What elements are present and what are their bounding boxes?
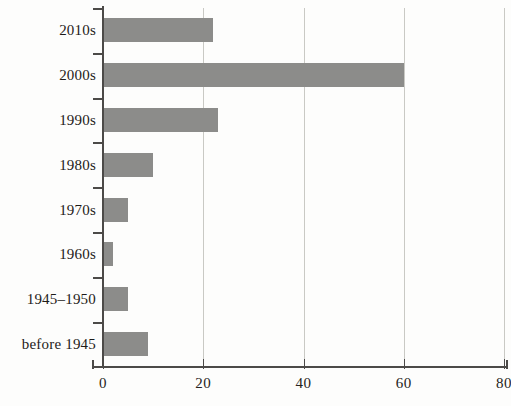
y-axis-label: before 1945 bbox=[0, 336, 96, 353]
bar bbox=[103, 198, 128, 222]
y-axis-tick bbox=[93, 187, 103, 189]
y-axis-tick bbox=[93, 322, 103, 324]
bar bbox=[103, 287, 128, 311]
x-axis-label: 60 bbox=[396, 375, 412, 392]
x-axis-line bbox=[92, 366, 508, 368]
y-axis-tick bbox=[93, 8, 103, 10]
y-axis-label: 1980s bbox=[0, 156, 96, 173]
y-axis-tick bbox=[93, 142, 103, 144]
bar bbox=[103, 63, 404, 87]
x-axis-tick-0 bbox=[103, 359, 104, 369]
x-axis-label: 80 bbox=[496, 375, 511, 392]
y-axis-label: 2010s bbox=[0, 22, 96, 39]
x-axis-left-cap bbox=[92, 360, 94, 369]
gridline-80 bbox=[504, 8, 505, 366]
bar bbox=[103, 153, 153, 177]
y-axis-label: 1945–1950 bbox=[0, 291, 96, 308]
plot-area bbox=[103, 8, 504, 366]
bar-chart: 2010s2000s1990s1980s1970s1960s1945–1950b… bbox=[0, 0, 511, 406]
bar bbox=[103, 108, 218, 132]
gridline-40 bbox=[304, 8, 305, 366]
bar bbox=[103, 18, 213, 42]
gridline-60 bbox=[404, 8, 405, 366]
x-axis-label: 40 bbox=[296, 375, 312, 392]
y-axis-label: 2000s bbox=[0, 67, 96, 84]
x-axis-label: 20 bbox=[195, 375, 211, 392]
y-axis-label: 1970s bbox=[0, 201, 96, 218]
x-axis-tick-20 bbox=[203, 359, 204, 369]
bar bbox=[103, 332, 148, 356]
y-axis-tick bbox=[93, 277, 103, 279]
x-axis-right-cap bbox=[506, 360, 508, 369]
y-axis-tick bbox=[93, 98, 103, 100]
x-axis-tick-60 bbox=[404, 359, 405, 369]
y-axis-tick bbox=[93, 232, 103, 234]
bar bbox=[103, 242, 113, 266]
y-axis-label: 1960s bbox=[0, 246, 96, 263]
x-axis-label: 0 bbox=[99, 375, 107, 392]
x-axis-tick-80 bbox=[504, 359, 505, 369]
gridline-20 bbox=[203, 8, 204, 366]
y-axis-tick bbox=[93, 53, 103, 55]
x-axis-tick-40 bbox=[304, 359, 305, 369]
y-axis-label: 1990s bbox=[0, 112, 96, 129]
